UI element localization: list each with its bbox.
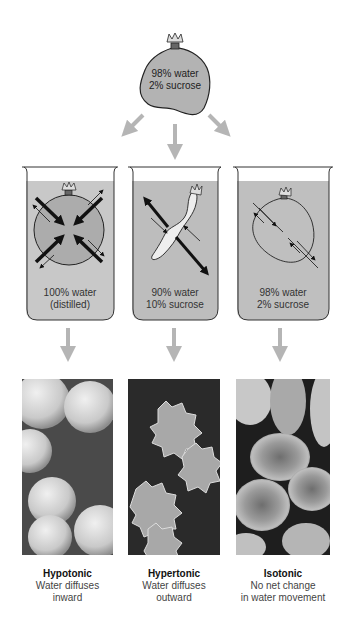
bag-tie-icon: [167, 33, 183, 49]
beaker-2-label: 90% water 10% sucrose: [132, 287, 218, 311]
beaker-1-line1: 100% water: [26, 287, 114, 299]
hypertonic-caption: Hypertonic Water diffuses outward: [124, 568, 224, 604]
isotonic-title: Isotonic: [228, 568, 338, 580]
source-bag-line2: 2% sucrose: [140, 80, 210, 92]
top-arrows: [127, 115, 225, 152]
isotonic-micrograph: [236, 379, 330, 555]
hypotonic-line2: inward: [22, 592, 113, 604]
hypertonic-line2: outward: [124, 592, 224, 604]
isotonic-caption: Isotonic No net change in water movement: [228, 568, 338, 604]
arrow-to-isotonic-icon: [209, 115, 225, 131]
isotonic-line1: No net change: [228, 580, 338, 592]
hypotonic-caption: Hypotonic Water diffuses inward: [22, 568, 113, 604]
beaker-3-label: 98% water 2% sucrose: [237, 287, 329, 311]
hypertonic-line1: Water diffuses: [124, 580, 224, 592]
source-bag-label: 98% water 2% sucrose: [140, 68, 210, 92]
hypertonic-micrograph: [128, 379, 220, 555]
beaker-3-line2: 2% sucrose: [237, 299, 329, 311]
beaker-2-line1: 90% water: [132, 287, 218, 299]
arrow-to-hypotonic-icon: [127, 115, 143, 131]
hypotonic-micrograph: [22, 379, 113, 555]
hypertonic-title: Hypertonic: [124, 568, 224, 580]
hypotonic-line1: Water diffuses: [22, 580, 113, 592]
down-arrows: [68, 328, 280, 354]
source-bag-line1: 98% water: [140, 68, 210, 80]
beaker-1-line2: (distilled): [26, 299, 114, 311]
beaker-2-line2: 10% sucrose: [132, 299, 218, 311]
isotonic-line2: in water movement: [228, 592, 338, 604]
beaker-1-label: 100% water (distilled): [26, 287, 114, 311]
beaker-3-line1: 98% water: [237, 287, 329, 299]
hypotonic-title: Hypotonic: [22, 568, 113, 580]
